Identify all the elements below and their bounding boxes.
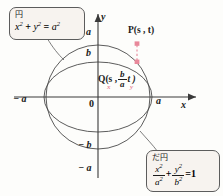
y-tick-a: a	[86, 27, 91, 37]
y-tick-minus-a: − a	[78, 163, 92, 173]
ellipse-eq-fraction2: y2b2	[172, 163, 184, 187]
ellipse-callout-equation: x2a2+y2b2=1	[152, 163, 215, 187]
circle-eq-term3-exponent: 2	[57, 20, 60, 27]
x-axis-arrowhead	[188, 94, 196, 101]
point-q-fraction-numerator: b	[118, 70, 127, 79]
circle-callout-equation: x2 + y2 = a2	[15, 20, 80, 32]
point-p-marker	[135, 41, 140, 45]
origin-label: 0	[89, 99, 94, 109]
point-q-x-annotation: x	[107, 83, 111, 91]
point-q-marker	[135, 60, 140, 64]
math-figure-canvas: x y 0 − a a a b − b − a P(s , t) Q(s ,ba…	[0, 0, 223, 196]
ellipse-eq-rhs: 1	[191, 168, 196, 179]
ellipse-eq-frac2-num-exp: 2	[179, 162, 182, 169]
ellipse-eq-frac1-num-exp: 2	[159, 162, 162, 169]
x-tick-minus-a: − a	[13, 94, 27, 104]
ellipse-callout-leader	[140, 131, 158, 152]
ellipse-callout-caption: だ円	[152, 153, 215, 162]
circle-eq-plus: +	[25, 22, 31, 33]
circle-callout-leader	[47, 38, 64, 60]
circle-eq-term2-exponent: 2	[38, 20, 41, 27]
ellipse-eq-frac2-numerator: y2	[172, 163, 184, 174]
ellipse-eq-fraction1: x2a2	[153, 163, 165, 187]
y-tick-b: b	[86, 48, 91, 58]
y-tick-minus-b: − b	[78, 140, 92, 150]
ellipse-eq-frac1-numerator: x2	[153, 163, 165, 174]
ellipse-eq-frac2-den-exp: 2	[179, 175, 182, 182]
x-tick-a: a	[156, 96, 161, 106]
circle-eq-term1-exponent: 2	[19, 20, 22, 27]
circle-eq-equals: =	[44, 22, 50, 33]
ellipse-eq-frac1-denominator: a2	[153, 175, 165, 187]
circle-callout-box: 円 x2 + y2 = a2	[9, 7, 85, 40]
y-axis-label: y	[101, 12, 105, 22]
ellipse-eq-frac1-den-exp: 2	[160, 175, 163, 182]
ellipse-eq-plus: +	[166, 168, 172, 179]
point-p-label: P(s , t)	[128, 26, 154, 36]
ellipse-eq-frac2-denominator: b2	[172, 175, 184, 187]
point-q-fraction: ba	[118, 70, 127, 90]
point-q-y-annotation: y	[130, 83, 133, 91]
circle-callout-caption: 円	[15, 10, 80, 19]
x-axis-label: x	[181, 100, 186, 110]
point-q-fraction-denominator: a	[118, 79, 127, 89]
ellipse-callout-box: だ円 x2a2+y2b2=1	[146, 150, 220, 192]
